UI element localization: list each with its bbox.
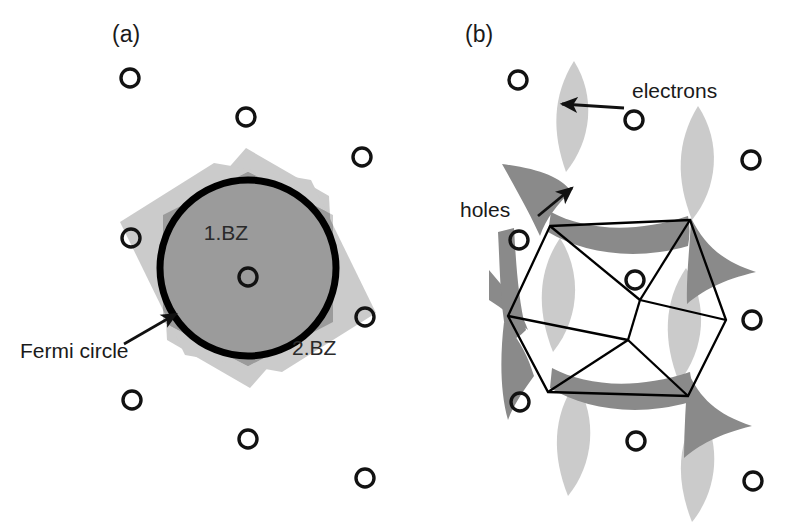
panel-a-label: (a): [112, 21, 140, 47]
fermi-circle-annotation: Fermi circle: [20, 314, 176, 362]
electron-pocket: [681, 106, 714, 220]
lattice-point: [742, 151, 760, 169]
electrons-label: electrons: [632, 79, 717, 102]
panel-a-group: 1.BZ 2.BZ Fermi circle (a): [20, 21, 376, 487]
holes-label: holes: [460, 198, 510, 221]
panel-b-group: electrons holes (b): [460, 21, 762, 522]
lattice-point: [625, 111, 643, 129]
panel-b-label: (b): [465, 21, 493, 47]
first-brillouin-zone-label: 1.BZ: [204, 221, 249, 244]
hole-pocket-band: [548, 212, 690, 254]
lattice-point: [356, 469, 374, 487]
lattice-point: [743, 311, 761, 329]
lattice-point: [237, 108, 255, 126]
lattice-point: [353, 148, 371, 166]
second-brillouin-zone-label: 2.BZ: [292, 336, 337, 359]
electron-pocket: [542, 238, 575, 352]
figure-root: 1.BZ 2.BZ Fermi circle (a): [0, 0, 807, 525]
lattice-point: [123, 391, 141, 409]
lattice-point: [239, 430, 257, 448]
lattice-point: [627, 432, 645, 450]
lattice-point: [121, 69, 139, 87]
electron-pocket: [556, 61, 588, 172]
lattice-point: [744, 472, 762, 490]
figure-canvas: 1.BZ 2.BZ Fermi circle (a): [0, 0, 807, 525]
fermi-circle-label: Fermi circle: [20, 339, 129, 362]
hole-pocket: [687, 218, 756, 304]
lattice-point: [626, 271, 644, 289]
lattice-point: [509, 71, 527, 89]
hole-pockets: [489, 164, 756, 458]
